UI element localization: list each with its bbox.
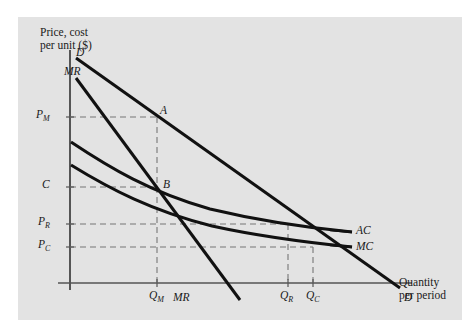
y-tick-label-pm: PM <box>36 108 50 124</box>
x-tick-qm-sub: M <box>157 295 164 304</box>
y-axis-title-line1: Price, cost <box>40 26 92 39</box>
x-tick-label-qm: QM <box>149 289 164 305</box>
y-tick-pr-sub: R <box>45 221 50 230</box>
y-tick-label-pr: PR <box>38 215 50 231</box>
y-tick-pm-text: P <box>36 108 43 120</box>
x-tick-label-qr: QR <box>280 289 293 305</box>
mr-label-bottom: MR <box>173 291 190 304</box>
point-a-label: A <box>160 104 167 117</box>
average-cost-curve <box>71 165 352 247</box>
mc-label: MC <box>356 240 373 253</box>
y-tick-pc-text: P <box>38 238 45 250</box>
x-tick-qc-sub: C <box>314 295 319 304</box>
x-axis-title-line1: Quantity <box>399 276 446 289</box>
x-tick-label-qc: QC <box>306 289 320 305</box>
y-tick-pm-sub: M <box>43 114 50 123</box>
x-tick-qr-sub: R <box>288 295 293 304</box>
demand-label-bottom: D <box>404 291 412 304</box>
marginal-revenue-curve <box>76 78 240 300</box>
y-tick-label-c: C <box>42 178 50 194</box>
economics-figure: Price, cost per unit ($) Quantity per pe… <box>0 0 472 329</box>
y-tick-c-text: C <box>42 178 50 190</box>
mr-label-top: MR <box>64 65 81 78</box>
demand-label-top: D <box>76 46 84 59</box>
point-b-label: B <box>163 178 170 191</box>
y-tick-pr-text: P <box>38 215 45 227</box>
y-tick-pc-sub: C <box>45 244 50 253</box>
y-tick-label-pc: PC <box>38 238 50 254</box>
ac-label: AC <box>356 224 371 237</box>
